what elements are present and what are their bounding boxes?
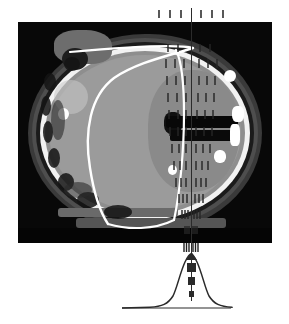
profile-axis-marker-3 <box>188 277 195 285</box>
ct-calcification-6 <box>230 124 240 146</box>
profile-axis-marker-4 <box>189 291 194 297</box>
radiotherapy-plan-figure <box>0 0 289 324</box>
profile-curve <box>122 254 232 308</box>
ct-structure-lesion-cavity-2 <box>170 130 232 141</box>
dose-profile-chart <box>0 243 289 324</box>
ct-calcification-4 <box>168 165 177 175</box>
ct-structure-lesion-cavity <box>166 116 238 128</box>
profile-axis-marker-2 <box>187 263 196 272</box>
ct-slice-image <box>18 22 272 243</box>
ct-slice-frame <box>18 22 272 243</box>
ct-headrest <box>76 218 226 228</box>
ct-calcification-1 <box>232 106 244 122</box>
ct-table-shadow <box>18 228 272 243</box>
ct-structure-muscle-void <box>62 48 88 70</box>
ct-calcification-2 <box>224 70 236 82</box>
ct-calcification-5 <box>58 108 69 120</box>
ct-calcification-3 <box>214 150 226 163</box>
ct-headrest-upper <box>58 208 178 217</box>
